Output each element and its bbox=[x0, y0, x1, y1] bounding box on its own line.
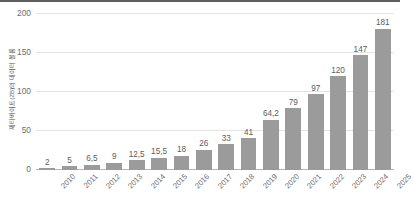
bar-value-label: 18 bbox=[177, 145, 186, 154]
bar-slot: 18 bbox=[170, 14, 192, 170]
bar-value-label: 9 bbox=[112, 152, 117, 161]
bar[interactable] bbox=[196, 150, 212, 170]
bar-slot: 12,5 bbox=[126, 14, 148, 170]
x-tick-label: 2024 bbox=[372, 172, 390, 190]
bar-value-label: 181 bbox=[376, 18, 390, 27]
x-tick-label: 2011 bbox=[81, 172, 99, 190]
bar-value-label: 12,5 bbox=[129, 150, 145, 159]
x-tick-label: 2015 bbox=[171, 172, 189, 190]
bar-slot: 15,5 bbox=[148, 14, 170, 170]
top-divider bbox=[0, 0, 400, 2]
bar[interactable] bbox=[174, 156, 190, 170]
y-tick-label: 0 bbox=[26, 164, 31, 174]
bar-value-label: 2 bbox=[45, 158, 50, 167]
x-tick-label: 2016 bbox=[193, 172, 211, 190]
x-tick-label: 2020 bbox=[283, 172, 301, 190]
x-tick-label: 2025 bbox=[395, 172, 413, 190]
bar-value-label: 15,5 bbox=[151, 147, 167, 156]
bar[interactable] bbox=[308, 94, 324, 170]
bar-value-label: 147 bbox=[354, 45, 368, 54]
bar[interactable] bbox=[353, 55, 369, 170]
bar-slot: 120 bbox=[327, 14, 349, 170]
x-tick-label: 2018 bbox=[238, 172, 256, 190]
bar-value-label: 41 bbox=[244, 128, 253, 137]
bar-slot: 181 bbox=[372, 14, 394, 170]
bar-slot: 64,2 bbox=[260, 14, 282, 170]
bar-slot: 6,5 bbox=[81, 14, 103, 170]
bar-value-label: 6,5 bbox=[86, 154, 97, 163]
x-tick-label: 2017 bbox=[216, 172, 234, 190]
bar-slot: 26 bbox=[193, 14, 215, 170]
bar-value-label: 33 bbox=[222, 134, 231, 143]
bar-slot: 2 bbox=[36, 14, 58, 170]
bar[interactable] bbox=[330, 76, 346, 170]
bar[interactable] bbox=[151, 158, 167, 170]
x-tick-label: 2013 bbox=[126, 172, 144, 190]
x-tick-label: 2010 bbox=[59, 172, 77, 190]
bar[interactable] bbox=[106, 163, 122, 170]
x-axis-labels: 2010201120122013201420152016201720182019… bbox=[36, 172, 394, 212]
x-tick-label: 2021 bbox=[305, 172, 323, 190]
bar-value-label: 79 bbox=[289, 98, 298, 107]
bar[interactable] bbox=[129, 160, 145, 170]
bar-value-label: 5 bbox=[67, 156, 72, 165]
bar-slot: 79 bbox=[282, 14, 304, 170]
x-tick-label: 2022 bbox=[328, 172, 346, 190]
bar-slot: 41 bbox=[237, 14, 259, 170]
y-tick-label: 200 bbox=[17, 8, 31, 18]
bar-slot: 5 bbox=[58, 14, 80, 170]
plot-area: 050100150200 256,5912,515,51826334164,27… bbox=[36, 14, 394, 170]
x-tick-label: 2023 bbox=[350, 172, 368, 190]
bar[interactable] bbox=[39, 168, 55, 170]
bar[interactable] bbox=[241, 138, 257, 170]
bar-slot: 97 bbox=[305, 14, 327, 170]
bar-value-label: 26 bbox=[199, 139, 208, 148]
bar-value-label: 64,2 bbox=[263, 109, 279, 118]
bar[interactable] bbox=[375, 29, 391, 170]
y-tick-label: 150 bbox=[17, 47, 31, 57]
x-tick-label: 2014 bbox=[149, 172, 167, 190]
x-tick-label: 2019 bbox=[261, 172, 279, 190]
y-tick-label: 50 bbox=[22, 125, 31, 135]
x-tick-label: 2012 bbox=[104, 172, 122, 190]
y-tick-label: 100 bbox=[17, 86, 31, 96]
y-axis-title: 제타바이트(ZB)의 데이터 볼륨 bbox=[9, 14, 15, 164]
bar[interactable] bbox=[62, 166, 78, 170]
bar-slot: 9 bbox=[103, 14, 125, 170]
bar[interactable] bbox=[84, 165, 100, 170]
bar-slot: 33 bbox=[215, 14, 237, 170]
bar-value-label: 97 bbox=[311, 84, 320, 93]
bar[interactable] bbox=[263, 120, 279, 170]
bar[interactable] bbox=[285, 108, 301, 170]
bar-value-label: 120 bbox=[331, 66, 345, 75]
bar-slot: 147 bbox=[349, 14, 371, 170]
bar-series: 256,5912,515,51826334164,27997120147181 bbox=[36, 14, 394, 170]
bar[interactable] bbox=[218, 144, 234, 170]
